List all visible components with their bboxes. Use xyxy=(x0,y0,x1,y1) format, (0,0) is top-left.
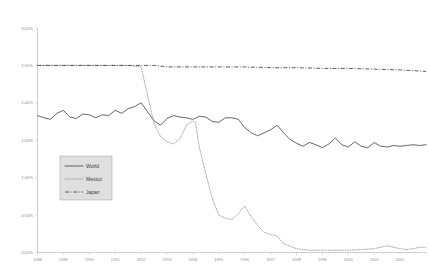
x-tick-label: 1996 xyxy=(240,257,250,262)
legend-label-japan: Japan xyxy=(86,189,100,195)
chart-container: 0.00%0.50%1.00%1.50%2.00%2.50%3.00% 1988… xyxy=(0,0,429,270)
x-tick-label: 1999 xyxy=(318,257,328,262)
x-tick-label: 2002 xyxy=(396,257,406,262)
x-tick-label: 1990 xyxy=(85,257,95,262)
x-tick-label: 1997 xyxy=(266,257,276,262)
x-tick-label: 2001 xyxy=(370,257,380,262)
x-tick-label: 1994 xyxy=(188,257,198,262)
y-tick-label: 1.50% xyxy=(21,138,33,143)
chart-legend: WorldMexicoJapan xyxy=(60,156,112,200)
x-tick-label: 1995 xyxy=(214,257,224,262)
x-tick-label: 1998 xyxy=(292,257,302,262)
legend-label-world: World xyxy=(86,163,99,169)
line-chart: 0.00%0.50%1.00%1.50%2.00%2.50%3.00% 1988… xyxy=(0,0,429,270)
y-tick-label: 2.00% xyxy=(21,100,33,105)
x-tick-label: 1988 xyxy=(33,257,43,262)
y-tick-label: 0.00% xyxy=(21,250,33,255)
series-line-japan xyxy=(38,65,427,71)
legend-label-mexico: Mexico xyxy=(86,176,102,182)
y-tick-label: 1.00% xyxy=(21,175,33,180)
x-tick-label: 1992 xyxy=(137,257,147,262)
x-tick-label: 1993 xyxy=(163,257,173,262)
x-tick-label: 2000 xyxy=(344,257,354,262)
x-tick-label: 1991 xyxy=(111,257,121,262)
x-tick-labels: 1988198919901991199219931994199519961997… xyxy=(33,253,405,263)
y-tick-label: 2.50% xyxy=(21,63,33,68)
y-tick-label: 3.00% xyxy=(21,26,33,31)
x-tick-label: 1989 xyxy=(59,257,69,262)
y-tick-label: 0.50% xyxy=(21,213,33,218)
y-tick-labels: 0.00%0.50%1.00%1.50%2.00%2.50%3.00% xyxy=(21,26,37,256)
series-line-world xyxy=(38,103,427,148)
